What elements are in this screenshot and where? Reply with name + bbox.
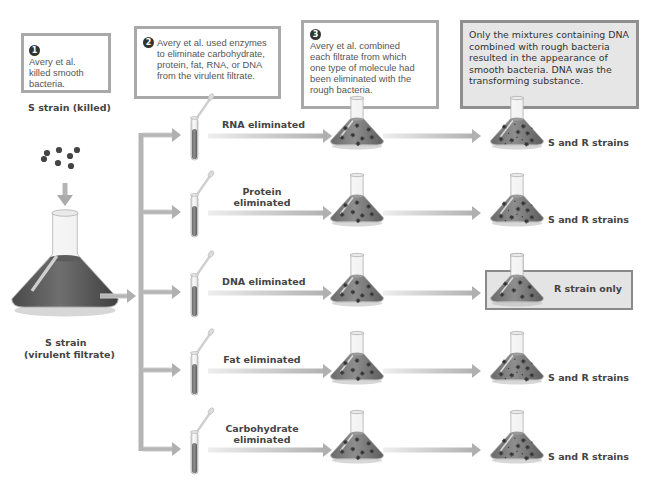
treatment-arrow (208, 364, 332, 378)
mixture-flask (330, 410, 383, 463)
tube-liquid (192, 443, 197, 473)
arrow-head (172, 285, 181, 299)
smooth-bacterium (530, 452, 534, 456)
smooth-bacterium (499, 214, 503, 218)
rough-bacterium (505, 220, 506, 221)
arrow-shaft (208, 369, 323, 374)
smooth-bacterium (356, 377, 360, 381)
distribution-trunk (139, 133, 144, 451)
smooth-bacterium (522, 439, 526, 443)
result-label: S and R strains (548, 451, 629, 462)
rough-bacterium (531, 204, 532, 205)
arrow-head (472, 286, 481, 300)
arrow-shaft (143, 133, 172, 138)
rough-bacterium (505, 378, 506, 379)
tube-rim (190, 194, 198, 197)
test-tube (190, 407, 214, 474)
killed-bacterium (44, 150, 50, 156)
smooth-bacterium (361, 214, 365, 218)
smooth-bacterium (361, 451, 365, 455)
smooth-bacterium (340, 213, 344, 217)
rough-bacterium (531, 127, 532, 128)
flask-rim (510, 173, 524, 176)
result-label: S and R strains (548, 137, 629, 148)
smooth-bacterium (340, 136, 344, 140)
rough-bacterium (514, 438, 515, 439)
rough-bacterium (514, 201, 515, 202)
arrow-shaft (383, 369, 472, 374)
tube-rim (190, 117, 198, 120)
down-arrow (57, 183, 73, 206)
treatment-label: Protein (222, 186, 302, 197)
flask-rim (350, 331, 364, 334)
smooth-bacterium (367, 363, 371, 367)
rough-bacterium (531, 441, 532, 442)
flask-rim (510, 253, 524, 256)
smooth-bacterium (367, 285, 371, 289)
rough-bacterium (522, 139, 523, 140)
flask-rim (510, 331, 524, 334)
branch-arrow (143, 285, 181, 299)
smooth-bacterium (355, 124, 359, 128)
rough-bacterium (514, 124, 515, 125)
smooth-bacterium (525, 219, 529, 223)
treatment-arrow (208, 286, 332, 300)
arrow-head (127, 289, 136, 303)
smooth-bacterium (351, 447, 355, 451)
smooth-bacterium (510, 215, 514, 219)
smooth-bacterium (344, 126, 348, 130)
smooth-bacterium (530, 373, 534, 377)
smooth-bacterium (522, 125, 526, 129)
smooth-bacterium (344, 203, 348, 207)
killed-bacterium (41, 156, 47, 162)
test-tube (190, 170, 214, 237)
smooth-bacterium (502, 439, 506, 443)
treatment-label: Fat eliminated (222, 354, 302, 365)
result-arrow (383, 286, 481, 300)
rough-bacterium (522, 453, 523, 454)
smooth-bacterium (502, 202, 506, 206)
arrow-head (57, 195, 73, 206)
tube-liquid (192, 206, 197, 236)
branch-arrow (143, 442, 181, 456)
smooth-bacterium (370, 370, 374, 374)
arrow-shaft (63, 183, 68, 195)
flask-rim (52, 210, 78, 217)
arrow-head (472, 364, 481, 378)
smooth-bacterium (351, 133, 355, 137)
result-flask (490, 331, 543, 384)
smooth-bacterium (370, 135, 374, 139)
smooth-bacterium (356, 299, 360, 303)
rough-bacterium (508, 133, 509, 134)
arrow-shaft (208, 448, 323, 453)
rough-bacterium (505, 143, 506, 144)
smooth-bacterium (361, 137, 365, 141)
rough-bacterium (514, 359, 515, 360)
test-tube (190, 93, 214, 160)
rough-bacterium (508, 447, 509, 448)
smooth-bacterium (522, 360, 526, 364)
smooth-bacterium (355, 438, 359, 442)
tube-liquid (192, 286, 197, 316)
virulent-filtrate-flask (12, 210, 119, 317)
smooth-bacterium (351, 290, 355, 294)
flask-rim (510, 96, 524, 99)
rough-bacterium (531, 362, 532, 363)
result-arrow (383, 129, 481, 143)
arrow-head (472, 443, 481, 457)
experiment-diagram (0, 0, 652, 502)
smooth-bacterium (516, 207, 520, 211)
branch-arrow (143, 128, 181, 142)
result-flask (490, 96, 543, 149)
smooth-bacterium (344, 283, 348, 287)
smooth-bacterium (361, 372, 365, 376)
smooth-bacterium (344, 440, 348, 444)
flask-rim (510, 410, 524, 413)
result-flask (490, 173, 543, 226)
smooth-bacterium (502, 360, 506, 364)
smooth-bacterium (525, 377, 529, 381)
smooth-bacterium (340, 293, 344, 297)
treatment-arrow (208, 129, 332, 143)
smooth-bacterium (516, 365, 520, 369)
result-label: S and R strains (548, 214, 629, 225)
